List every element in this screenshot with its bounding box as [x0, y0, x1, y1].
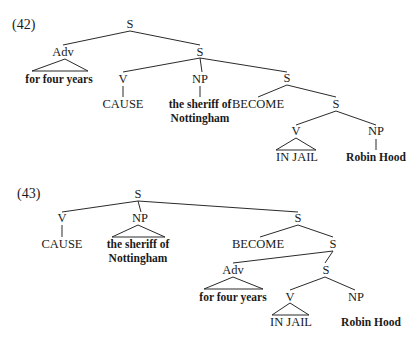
- node-adv: Adv: [52, 46, 74, 59]
- node-s: S: [284, 72, 291, 85]
- node-v: V: [291, 125, 300, 138]
- leaf-np-text: Robin Hood: [346, 151, 406, 164]
- node-np: NP: [368, 125, 384, 138]
- node-s: S: [197, 46, 204, 59]
- leaf-np-text-line2: Nottingham: [109, 252, 168, 265]
- node-s: S: [323, 264, 330, 277]
- example-number-42: (42): [12, 17, 35, 33]
- leaf-v-text: IN JAIL: [270, 316, 312, 329]
- node-np: NP: [132, 212, 148, 225]
- node-adv: Adv: [222, 264, 244, 277]
- node-s-root: S: [135, 188, 142, 201]
- node-s: S: [295, 212, 302, 225]
- example-number-43: (43): [17, 186, 40, 202]
- node-s: S: [330, 238, 337, 251]
- leaf-v-text: CAUSE: [42, 238, 83, 251]
- node-s-root: S: [127, 18, 134, 31]
- leaf-adv-text: for four years: [25, 73, 92, 86]
- leaf-np-text-line1: the sheriff of: [107, 238, 170, 251]
- leaf-v-text: CAUSE: [103, 98, 144, 111]
- node-become: BECOME: [232, 238, 284, 251]
- leaf-np-text-line2: Nottingham: [171, 112, 230, 125]
- leaf-adv-text: for four years: [199, 291, 266, 304]
- leaf-np-text: Robin Hood: [341, 316, 401, 329]
- leaf-v-text: IN JAIL: [276, 151, 318, 164]
- node-s: S: [333, 98, 340, 111]
- node-v: V: [118, 73, 127, 86]
- leaf-np-text-line1: the sheriff of: [169, 98, 232, 111]
- node-np: NP: [348, 291, 364, 304]
- node-np: NP: [192, 73, 208, 86]
- node-v: V: [285, 291, 294, 304]
- node-become: BECOME: [232, 98, 284, 111]
- node-v: V: [57, 212, 66, 225]
